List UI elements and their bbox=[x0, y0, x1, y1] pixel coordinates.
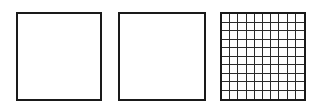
grid-cell bbox=[263, 48, 271, 57]
grid-cell bbox=[230, 91, 238, 100]
grid-cell bbox=[222, 14, 230, 23]
grid-cell bbox=[222, 82, 230, 91]
grid-cell bbox=[247, 48, 255, 57]
grid-cell bbox=[263, 40, 271, 49]
grid-cell bbox=[288, 23, 296, 32]
grid-cell bbox=[263, 14, 271, 23]
grid-cell bbox=[238, 82, 246, 91]
grid-cell bbox=[279, 91, 287, 100]
grid-cell bbox=[255, 14, 263, 23]
grid-cell bbox=[288, 74, 296, 83]
grid-cell bbox=[238, 48, 246, 57]
grid-cell bbox=[230, 74, 238, 83]
grid-cell bbox=[222, 23, 230, 32]
grid-cell bbox=[230, 14, 238, 23]
grid-cell bbox=[279, 14, 287, 23]
grid-cell bbox=[222, 74, 230, 83]
grid-cell bbox=[247, 91, 255, 100]
grid-cell bbox=[247, 14, 255, 23]
grid-cell bbox=[247, 65, 255, 74]
grid-cell bbox=[222, 65, 230, 74]
grid-cell bbox=[230, 31, 238, 40]
grid-cell bbox=[222, 91, 230, 100]
grid-cell bbox=[271, 40, 279, 49]
grid-cell bbox=[247, 57, 255, 66]
grid-cell bbox=[247, 74, 255, 83]
grid-cell bbox=[230, 40, 238, 49]
grid-cell bbox=[271, 31, 279, 40]
grid-cell bbox=[230, 57, 238, 66]
grid-cell bbox=[279, 82, 287, 91]
grid-cell bbox=[238, 14, 246, 23]
grid-cell bbox=[263, 31, 271, 40]
grid-cell bbox=[263, 82, 271, 91]
grid-cell bbox=[255, 31, 263, 40]
grid-cell bbox=[255, 48, 263, 57]
grid-cell bbox=[222, 31, 230, 40]
grid-cell bbox=[296, 31, 304, 40]
grid-cell bbox=[288, 48, 296, 57]
grid-cell bbox=[279, 65, 287, 74]
grid-cell bbox=[263, 57, 271, 66]
grid-cell bbox=[271, 23, 279, 32]
grid-cell bbox=[288, 31, 296, 40]
grid-cell bbox=[238, 40, 246, 49]
grid-cell bbox=[296, 57, 304, 66]
grid-cell bbox=[230, 82, 238, 91]
grid-cell bbox=[230, 23, 238, 32]
grid-cell bbox=[255, 65, 263, 74]
grid-cell bbox=[247, 23, 255, 32]
grid-cell bbox=[279, 74, 287, 83]
grid-cell bbox=[288, 14, 296, 23]
grid-cell bbox=[271, 14, 279, 23]
grid-cell bbox=[255, 40, 263, 49]
grid-cell bbox=[271, 48, 279, 57]
grid-cell bbox=[271, 74, 279, 83]
grid-cell bbox=[255, 74, 263, 83]
grid-cell bbox=[255, 57, 263, 66]
grid-cell bbox=[271, 57, 279, 66]
grid-cell bbox=[255, 23, 263, 32]
grid-cell bbox=[288, 82, 296, 91]
empty-square-1 bbox=[16, 12, 102, 101]
grid-cell bbox=[247, 31, 255, 40]
grid-cell bbox=[247, 40, 255, 49]
grid-cell bbox=[263, 23, 271, 32]
grid-cell bbox=[279, 40, 287, 49]
grid-cell bbox=[296, 48, 304, 57]
grid-cell bbox=[238, 91, 246, 100]
grid-cell bbox=[296, 91, 304, 100]
grid-cell bbox=[296, 40, 304, 49]
grid-cell bbox=[296, 82, 304, 91]
grid-cell bbox=[296, 65, 304, 74]
grid-cell bbox=[279, 57, 287, 66]
grid-cell bbox=[279, 48, 287, 57]
grid-cell bbox=[271, 82, 279, 91]
grid-cell bbox=[288, 91, 296, 100]
grid-cell bbox=[271, 91, 279, 100]
grid-cell bbox=[296, 74, 304, 83]
grid-cell bbox=[288, 40, 296, 49]
grid-cell bbox=[288, 65, 296, 74]
grid-cell bbox=[288, 57, 296, 66]
grid-cell bbox=[263, 74, 271, 83]
grid-cell bbox=[279, 23, 287, 32]
grid-square bbox=[220, 12, 306, 101]
grid-cell bbox=[230, 65, 238, 74]
grid-cell bbox=[222, 40, 230, 49]
grid-cell bbox=[222, 48, 230, 57]
grid-cell bbox=[263, 91, 271, 100]
grid-cell bbox=[279, 31, 287, 40]
grid-cell bbox=[238, 74, 246, 83]
grid-cell bbox=[255, 91, 263, 100]
grid-cell bbox=[296, 14, 304, 23]
grid-cell bbox=[296, 23, 304, 32]
grid-cell bbox=[247, 82, 255, 91]
grid-cell bbox=[222, 57, 230, 66]
grid-cell bbox=[238, 57, 246, 66]
grid-cell bbox=[238, 23, 246, 32]
grid-cell bbox=[255, 82, 263, 91]
empty-square-2 bbox=[118, 12, 206, 101]
grid-cell bbox=[230, 48, 238, 57]
grid-cell bbox=[238, 65, 246, 74]
